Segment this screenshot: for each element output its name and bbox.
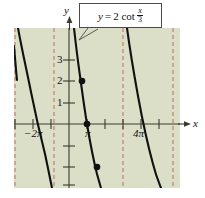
y-tick-label-3: 3	[57, 54, 63, 65]
y-axis-label: y	[64, 5, 69, 16]
x-tick-label-pi: π	[85, 128, 91, 139]
x-axis-label: x	[193, 118, 198, 129]
marked-point	[79, 78, 86, 85]
cot-branch	[18, 28, 52, 188]
cot-branch	[127, 28, 161, 188]
y-tick-label-1: 1	[57, 97, 63, 108]
equation-equals: =	[105, 10, 111, 22]
fraction-denominator: 3	[137, 16, 143, 24]
equation-callout: y = 2 cot x 3	[79, 3, 162, 28]
figure-container: 3 2 1 −2π π 4π y x y = 2 cot x 3	[0, 0, 205, 198]
equation-coef-fn: 2 cot	[113, 10, 135, 22]
graph-svg	[14, 28, 180, 188]
x-axis-arrow	[184, 121, 191, 127]
marked-point	[94, 164, 101, 171]
x-tick-label-4pi: 4π	[133, 128, 144, 139]
plot-area	[14, 28, 180, 188]
equation-text: y = 2 cot x 3	[98, 7, 143, 24]
equation-y: y	[98, 10, 103, 22]
x-tick-label-neg2pi: −2π	[24, 128, 42, 139]
y-axis-arrow	[67, 16, 73, 23]
curve-group	[14, 28, 161, 188]
equation-fraction: x 3	[137, 7, 143, 24]
y-tick-label-2: 2	[57, 75, 63, 86]
